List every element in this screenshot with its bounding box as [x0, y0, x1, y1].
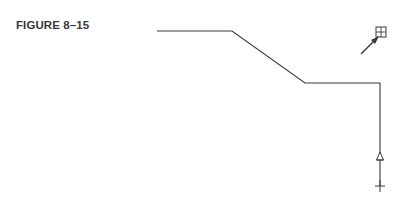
- crosshair-icon: [375, 180, 385, 192]
- drawing-canvas: [0, 0, 402, 202]
- pick-box-arrow-icon: [361, 27, 386, 54]
- profile-line: [157, 31, 380, 186]
- triangle-icon: [377, 152, 384, 160]
